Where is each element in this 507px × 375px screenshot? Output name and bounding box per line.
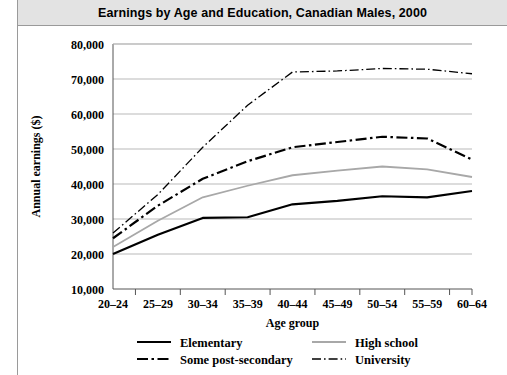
legend-label: Elementary [180, 336, 243, 350]
y-tick-label: 80,000 [71, 38, 104, 52]
y-tick-label: 30,000 [71, 213, 104, 227]
chart-figure: Earnings by Age and Education, Canadian … [0, 0, 507, 375]
x-tick-label: 55–59 [412, 297, 442, 311]
y-tick-label: 20,000 [71, 248, 104, 262]
legend-label: High school [355, 336, 418, 350]
y-tick-labels-group: 10,00020,00030,00040,00050,00060,00070,0… [71, 38, 104, 297]
y-tick-label: 60,000 [71, 108, 104, 122]
x-tick-label: 40–44 [278, 297, 308, 311]
x-tick-label: 25–29 [143, 297, 173, 311]
x-axis-title: Age group [266, 316, 320, 330]
legend-label: Some post-secondary [180, 353, 294, 367]
legend-label: University [355, 353, 411, 367]
page-title: Earnings by Age and Education, Canadian … [98, 6, 427, 20]
y-tick-label: 10,000 [71, 283, 104, 297]
x-tick-label: 50–54 [367, 297, 397, 311]
chart-title-banner: Earnings by Age and Education, Canadian … [18, 0, 507, 26]
y-tick-label: 50,000 [71, 143, 104, 157]
series-line [113, 167, 472, 248]
x-tick-label: 45–49 [322, 297, 352, 311]
series-line [113, 69, 472, 234]
y-tick-label: 40,000 [71, 178, 104, 192]
y-axis-title: Annual earnings ($) [29, 115, 43, 217]
x-tick-labels-group: 20–2425–2930–3435–3940–4445–4950–5455–59… [98, 297, 487, 311]
series-group [113, 69, 472, 255]
gridlines-group [113, 44, 472, 254]
line-chart: 10,00020,00030,00040,00050,00060,00070,0… [0, 26, 507, 375]
x-tick-label: 20–24 [98, 297, 128, 311]
series-line [113, 137, 472, 239]
y-tick-label: 70,000 [71, 73, 104, 87]
x-tick-label: 35–39 [233, 297, 263, 311]
x-tick-label: 30–34 [188, 297, 218, 311]
x-tick-label: 60–64 [457, 297, 487, 311]
legend-group: ElementaryHigh schoolSome post-secondary… [137, 336, 418, 367]
